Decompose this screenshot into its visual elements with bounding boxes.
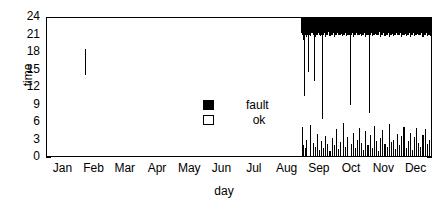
legend-item-fault: fault <box>200 98 296 113</box>
fault-bar <box>401 136 402 157</box>
x-tick-label: Dec <box>396 161 436 175</box>
fault-bar <box>414 137 415 157</box>
fault-bar <box>361 143 362 157</box>
fault-bar <box>347 137 348 157</box>
fault-bar <box>327 144 328 157</box>
fault-bar <box>376 141 377 157</box>
fault-bar <box>367 145 368 157</box>
fault-bar <box>306 140 307 158</box>
fault-bar <box>340 142 341 157</box>
fault-bar <box>363 150 364 157</box>
fault-bar <box>412 150 413 157</box>
legend-label-ok: ok <box>226 113 292 127</box>
fault-bar <box>338 149 339 157</box>
fault-ok-raster-chart: time day 03691215182124 JanFebMarAprMayJ… <box>0 0 448 206</box>
fault-bar <box>315 147 316 158</box>
fault-bar <box>387 147 388 158</box>
y-tick-label: 0 <box>14 149 40 163</box>
fault-bar <box>410 133 411 158</box>
open-square-icon <box>203 115 214 125</box>
fault-bar <box>325 136 326 157</box>
y-tick-label: 15 <box>14 62 40 76</box>
fault-interval-bars <box>46 17 432 157</box>
fault-bar <box>359 128 360 157</box>
fault-bar <box>319 150 320 157</box>
legend: fault ok <box>200 98 296 130</box>
x-axis-title: day <box>0 184 448 198</box>
fault-bar <box>393 140 394 158</box>
y-tick-label: 24 <box>14 9 40 23</box>
fault-bar <box>429 140 430 158</box>
y-tick-mark-right <box>427 157 432 158</box>
fault-bar <box>321 141 322 157</box>
fault-bar <box>384 144 385 157</box>
fault-bar <box>370 135 371 157</box>
fault-bar <box>357 140 358 158</box>
fault-bar <box>420 147 421 158</box>
fault-bar <box>380 138 381 157</box>
fault-bar <box>395 149 396 157</box>
fault-bar <box>406 148 407 157</box>
fault-bar <box>431 148 432 157</box>
fault-bar <box>391 142 392 157</box>
fault-bar <box>372 148 373 157</box>
y-tick-label: 3 <box>14 132 40 146</box>
fault-bar <box>317 134 318 157</box>
fault-bar <box>334 145 335 157</box>
fault-bar <box>416 128 417 157</box>
y-tick-label: 6 <box>14 114 40 128</box>
y-tick-label: 18 <box>14 44 40 58</box>
fault-bar <box>431 17 432 35</box>
fault-bar <box>303 145 304 157</box>
fault-bar <box>332 138 333 157</box>
fault-bar <box>418 143 419 157</box>
fault-bar <box>85 49 86 75</box>
fault-bar <box>397 134 398 157</box>
fault-bar <box>408 141 409 157</box>
fault-bar <box>343 123 344 157</box>
y-tick-mark <box>46 157 51 158</box>
legend-label-fault: fault <box>246 98 269 112</box>
fault-bar <box>329 151 330 157</box>
fault-bar <box>313 143 314 157</box>
fault-bar <box>355 148 356 157</box>
fault-bar <box>399 145 400 157</box>
fault-bar <box>403 127 404 157</box>
fault-bar <box>422 135 423 157</box>
fault-bar <box>353 133 354 158</box>
fault-bar <box>323 148 324 157</box>
fault-bar <box>365 131 366 157</box>
y-tick-label: 21 <box>14 27 40 41</box>
fault-bar <box>425 129 426 157</box>
fault-bar <box>374 126 375 158</box>
fault-bar <box>310 125 311 157</box>
fault-bar <box>351 144 352 157</box>
y-tick-label: 12 <box>14 79 40 93</box>
legend-item-ok: ok <box>200 113 296 128</box>
fault-bar <box>336 129 337 157</box>
fault-bar <box>427 144 428 157</box>
fault-bar <box>382 130 383 157</box>
y-tick-label: 9 <box>14 97 40 111</box>
fault-bar <box>345 147 346 158</box>
fault-bar <box>378 151 379 157</box>
filled-square-icon <box>203 100 214 110</box>
fault-bar <box>389 124 390 157</box>
